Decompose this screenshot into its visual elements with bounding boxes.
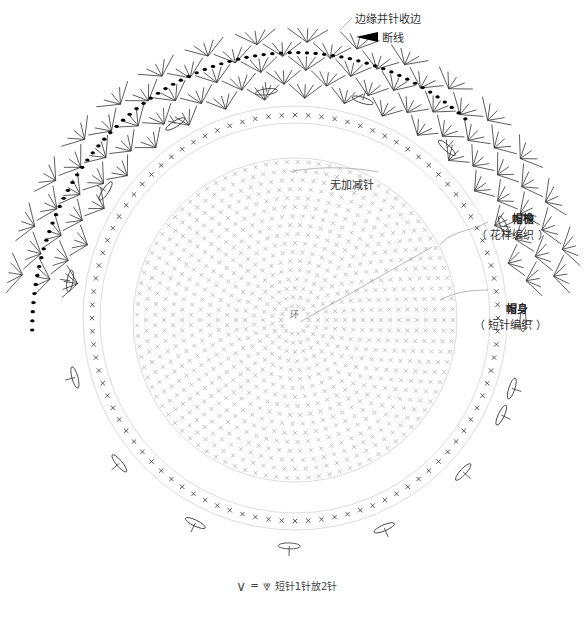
legend: ∨ = ⩔ 短针1针放2针	[236, 577, 337, 594]
crown-area	[133, 158, 457, 482]
increase-symbol: ⩔	[263, 577, 271, 594]
cut-yarn-label: 断线	[382, 29, 404, 45]
crown-subtitle: （ 短针编织 ）	[474, 316, 547, 332]
brim-subtitle: （ 花样编织 ）	[476, 226, 549, 242]
crown-title: 帽身	[506, 300, 528, 316]
brim-title: 帽檐	[512, 210, 534, 226]
center-ring-label: 环	[290, 310, 299, 320]
edge-finish-label: 边缘并针收边	[355, 10, 421, 26]
no-increase-label: 无加减针	[330, 176, 374, 192]
single-stitch-symbol: ∨	[236, 578, 246, 594]
crochet-chart: 环	[0, 0, 587, 627]
equals-sign: =	[250, 580, 258, 591]
legend-text: 短针1针放2针	[275, 578, 338, 593]
leader-lines	[290, 18, 488, 322]
